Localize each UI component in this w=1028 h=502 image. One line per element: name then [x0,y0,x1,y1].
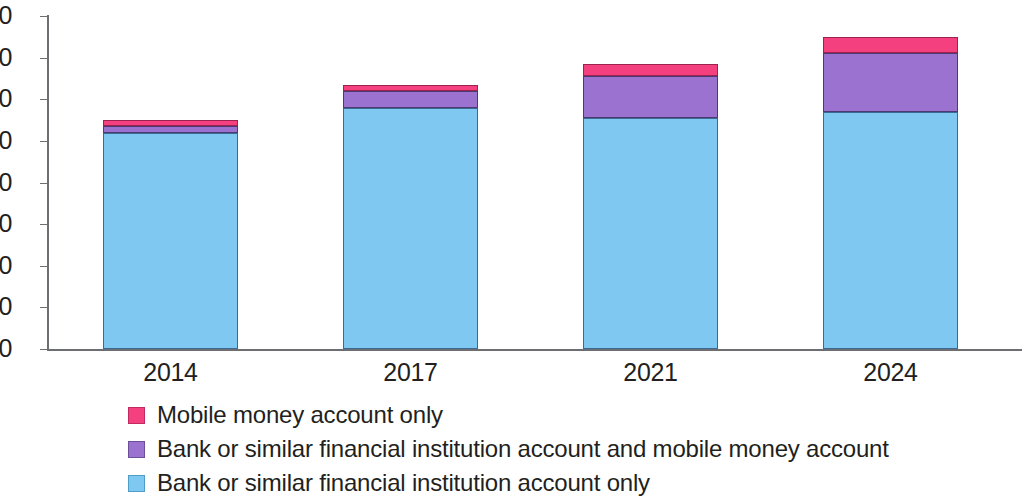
y-axis-tick-label: 10 [0,294,12,319]
legend-item-label: Bank or similar financial institution ac… [157,469,650,497]
legend-color-swatch [128,407,145,424]
bar-2014 [103,0,238,349]
bar-segment-2021-series-1 [583,76,718,118]
y-axis-tick-label: 50 [0,128,12,153]
bar-segment-2014-series-2 [103,120,238,126]
y-axis-tick-label: 0 [0,336,12,361]
y-axis-tick [40,224,49,225]
bar-segment-2017-series-1 [343,91,478,108]
y-axis-tick [40,99,49,100]
legend-item: Bank or similar financial institution ac… [128,432,1018,466]
x-axis-label-2024: 2024 [791,358,991,386]
x-axis-label-2014: 2014 [71,358,271,386]
y-axis-tick [40,183,49,184]
bar-segment-2017-series-0 [343,108,478,349]
legend-item: Mobile money account only [128,398,1018,432]
y-axis-tick-label: 40 [0,170,12,195]
x-axis-label-2021: 2021 [551,358,751,386]
bar-segment-2021-series-0 [583,118,718,349]
y-axis-tick-label: 60 [0,86,12,111]
y-axis-tick [40,266,49,267]
bar-segment-2021-series-2 [583,64,718,76]
legend-item-label: Bank or similar financial institution ac… [157,435,889,463]
stacked-bar-chart: 80706050403020100 2014201720212024 Mobil… [0,0,1028,502]
x-axis-label-2017: 2017 [311,358,511,386]
legend-color-swatch [128,475,145,492]
bar-2017 [343,0,478,349]
x-axis-line [47,349,1022,351]
legend-item-label: Mobile money account only [157,401,443,429]
y-axis-tick [40,16,49,17]
bar-2024 [823,0,958,349]
y-axis-tick [40,307,49,308]
bar-segment-2024-series-1 [823,53,958,111]
legend-color-swatch [128,441,145,458]
y-axis-tick-label: 20 [0,253,12,278]
bar-segment-2014-series-1 [103,126,238,132]
legend-item: Bank or similar financial institution ac… [128,466,1018,500]
y-axis-tick-label: 80 [0,3,12,28]
y-axis-tick [40,141,49,142]
bar-segment-2024-series-0 [823,112,958,349]
bar-2021 [583,0,718,349]
chart-legend: Mobile money account onlyBank or similar… [128,398,1018,500]
bar-segment-2024-series-2 [823,37,958,54]
bar-segment-2017-series-2 [343,85,478,91]
bar-segment-2014-series-0 [103,133,238,349]
y-axis-tick-label: 30 [0,211,12,236]
y-axis-tick [40,58,49,59]
y-axis-tick [40,349,49,350]
y-axis-tick-label: 70 [0,45,12,70]
